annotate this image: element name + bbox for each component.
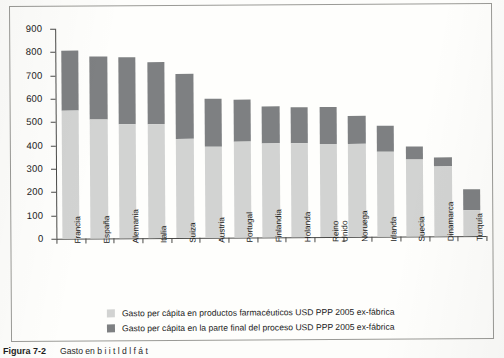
y-axis-tick-label: 300 [27,164,44,174]
y-axis-tick: 200 [51,192,56,193]
chart-plot-area: 0100200300400500600700800900 [55,26,486,239]
x-axis-tick [286,237,287,242]
x-axis-category-labels: FranciaEspañaAlemaniaItaliaSuizaAustriaP… [10,4,491,7]
y-axis-tick-label: 800 [26,47,43,57]
bar-segment-final-process [233,99,250,142]
x-axis-ticks [55,26,485,29]
x-axis-tick [486,236,487,241]
bar-segment-final-process [118,57,136,124]
x-axis-label-italia: Italia [161,226,170,243]
x-axis-label-holanda: Holanda [304,212,313,243]
figure-caption-label: Figura 7-2 [3,346,46,356]
y-axis-line [55,29,57,239]
x-axis-tick [458,236,459,241]
bar-segment-final-process [291,107,308,144]
x-axis-tick [85,239,86,244]
x-axis-tick [142,238,143,243]
chart-legend: Gasto per cápita en productos farmacéuti… [107,306,395,338]
x-axis-tick [200,238,201,243]
x-axis-label-dinamarca: Dinamarca [447,202,456,242]
bar-francia [61,51,79,239]
y-axis-tick: 300 [51,169,56,170]
x-axis-tick [171,238,172,243]
x-axis-label-portugal: Portugal [247,212,256,243]
bar-segment-final-process [348,116,365,145]
y-axis-tick: 100 [51,215,56,216]
bar-suiza [176,73,194,238]
x-axis-tick [56,239,57,244]
x-axis-label-suiza: Suiza [189,222,198,243]
y-axis-tick-label: 700 [26,70,43,80]
x-axis-tick [429,236,430,241]
bar-segment-final-process [205,99,222,147]
legend-item-light: Gasto per cápita en productos farmacéuti… [107,306,395,320]
bar-segment-final-process [434,157,451,166]
legend-label-light: Gasto per cápita en productos farmacéuti… [122,307,395,318]
y-axis-tick-label: 500 [26,117,43,127]
x-axis-tick [228,238,229,243]
bar-segment-final-process [147,62,165,125]
y-axis-tick: 900 [50,29,55,30]
y-axis-tick: 800 [50,52,55,53]
legend-item-dark: Gasto per cápita en la parte final del p… [107,321,395,335]
figure-caption-text: Gasto en b i i t l d l f á t [60,346,148,356]
bar-segment-final-process [90,56,108,120]
y-axis-tick: 400 [51,145,56,146]
x-axis-label-reino-unido: Reino Unido [333,221,350,243]
x-axis-tick [257,237,258,242]
x-axis-label-finlandia: Finlandia [275,209,284,242]
page-root: 0100200300400500600700800900 FranciaEspa… [0,0,504,358]
y-axis-tick-label: 600 [26,94,43,104]
x-axis-label-francia: Francia [75,216,84,243]
bar-reino-unido [319,107,337,237]
figure-caption: Figura 7-2 Gasto en b i i t l d l f á t [3,346,501,358]
legend-label-dark: Gasto per cápita en la parte final del p… [122,322,395,333]
bar-segment-final-process [262,107,279,143]
y-axis-tick: 600 [51,99,56,100]
y-axis-tick-label: 100 [27,210,44,220]
y-axis-tick-label: 900 [26,24,43,34]
bar-segment-final-process [463,189,480,209]
bar-segment-final-process [61,51,79,111]
x-axis-label-alemania: Alemania [132,209,141,243]
y-axis-tick-label: 200 [27,187,44,197]
bar-españa [90,56,108,238]
bar-segment-final-process [406,146,423,159]
figure-frame-inner: 0100200300400500600700800900 FranciaEspa… [10,4,493,341]
x-axis-label-austria: Austria [218,217,227,243]
y-axis-tick-label: 0 [38,234,44,244]
x-axis-tick [114,238,115,243]
bar-segment-final-process [377,126,394,152]
x-axis-label-españa: España [103,216,112,244]
x-axis-label-irlanda: Irlanda [390,217,399,242]
x-axis-label-suecia: Suecia [419,216,428,241]
legend-swatch-light-icon [107,309,115,317]
bar-segment-pharmaceutical [147,124,165,238]
legend-swatch-dark-icon [107,324,115,332]
y-axis-tick: 500 [51,122,56,123]
bar-segment-final-process [319,107,336,144]
bar-italia [147,62,165,238]
y-axis-tick: 700 [50,75,55,76]
bar-segment-final-process [176,73,194,138]
x-axis-label-turquía: Turquía [476,213,485,241]
x-axis-tick [400,237,401,242]
bar-series-group [55,26,485,29]
x-axis-label-noruega: Noruega [361,210,370,241]
x-axis-tick [314,237,315,242]
y-axis-tick-label: 400 [26,140,43,150]
x-axis-tick [372,237,373,242]
figure-frame: 0100200300400500600700800900 FranciaEspa… [9,3,494,342]
y-axis-ticks: 0100200300400500600700800900 [55,26,485,29]
